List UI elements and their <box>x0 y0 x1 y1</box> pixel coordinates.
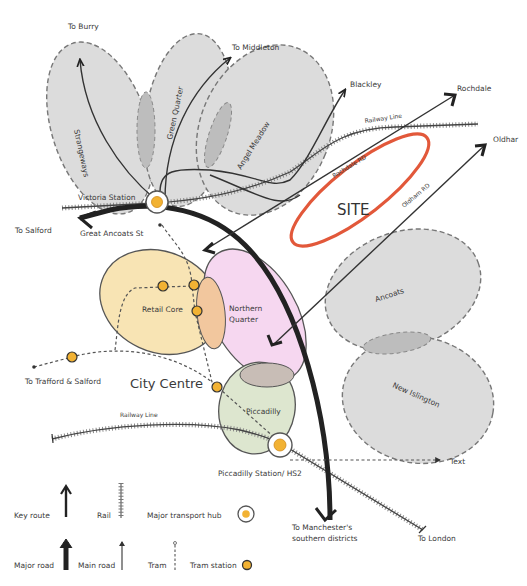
railway-line-south-label: Railway Line <box>120 411 158 419</box>
label-oldham: Oldhar <box>493 135 519 144</box>
legend-tram-station-icon <box>243 561 252 570</box>
zone-northern-quarter-line1: Northern <box>229 304 263 313</box>
legend-major-transport-hub-label: Major transport hub <box>147 511 222 520</box>
legend-hub-icon <box>238 506 254 522</box>
major-road-arrow-south <box>316 508 336 520</box>
label-to-london: To London <box>417 534 456 543</box>
zone-overlap <box>137 92 155 168</box>
label-city-centre: City Centre <box>130 376 203 391</box>
tram-terminus <box>158 223 162 227</box>
legend-tram-station-label: Tram station <box>189 561 237 570</box>
site-label: SITE <box>337 201 370 219</box>
legend-key-route-label: Key route <box>14 511 50 520</box>
rochdale-rd-label: Rochdale RD <box>331 153 368 179</box>
tram-station-icon[interactable] <box>192 306 202 316</box>
legend: Key route Rail Major transport hub Major… <box>14 483 254 570</box>
label-southern-line1: To Manchester's <box>291 523 352 532</box>
victoria-station-label: Victoria Station <box>78 193 136 202</box>
rochdale-arrow-west <box>205 243 215 253</box>
legend-major-road-label: Major road <box>14 561 54 570</box>
manchester-site-context-diagram: Strangeways Green Quarter Angel Meadow A… <box>0 0 527 586</box>
label-blackley: Blackley <box>350 80 382 89</box>
legend-main-road-label: Main road <box>78 561 115 570</box>
railway-line-north-label: Railway Line <box>364 112 403 125</box>
major-road-arrow-salford <box>80 212 96 228</box>
label-southern-line2: southern districts <box>292 534 358 543</box>
piccadilly-station-label: Piccadilly Station/ HS2 <box>218 469 302 478</box>
tram-station-icon[interactable] <box>158 281 168 291</box>
zone-piccadilly-label: Piccadilly <box>246 407 281 416</box>
label-to-trafford-salford: To Trafford & Salford <box>24 377 101 386</box>
zone-retail-core-label: Retail Core <box>142 305 183 314</box>
label-great-ancoats-st: Great Ancoats St <box>80 229 143 238</box>
tram-station-icon[interactable] <box>189 280 199 290</box>
tram-station-icon[interactable] <box>67 352 77 362</box>
label-to-bury: To Burry <box>67 22 99 31</box>
label-text-placeholder: Text <box>449 457 465 466</box>
legend-rail-label: Rail <box>97 511 111 520</box>
zone-northern-quarter-line2: Quarter <box>229 315 259 324</box>
zone-overlap <box>240 363 294 387</box>
legend-tram-label: Tram <box>147 561 166 570</box>
tram-terminus <box>32 365 36 369</box>
tram-station-icon[interactable] <box>212 382 222 392</box>
label-to-salford: To Salford <box>14 226 52 235</box>
label-rochdale: Rochdale <box>457 84 492 93</box>
label-to-middleton: To Middleton <box>231 43 280 52</box>
